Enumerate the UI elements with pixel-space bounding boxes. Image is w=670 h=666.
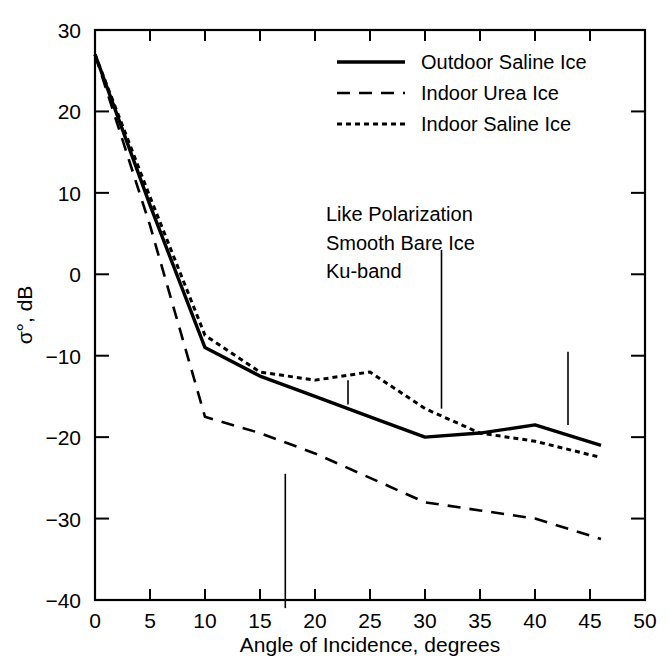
chart-background xyxy=(0,0,670,666)
y-axis-title: σ°, dB xyxy=(13,286,36,345)
x-tick-label: 40 xyxy=(523,609,546,632)
y-tick-label: −30 xyxy=(45,508,81,531)
x-axis-title: Angle of Incidence, degrees xyxy=(240,633,500,656)
sigma0-vs-incidence-angle-chart: 05101520253035404550 −40−30−20−100102030… xyxy=(0,0,670,666)
x-tick-label: 25 xyxy=(358,609,381,632)
legend-label-2: Indoor Saline Ice xyxy=(421,113,571,135)
x-tick-label: 15 xyxy=(248,609,271,632)
y-tick-label: 0 xyxy=(69,263,81,286)
x-tick-label: 5 xyxy=(144,609,156,632)
y-tick-label: −10 xyxy=(45,345,81,368)
x-tick-label: 30 xyxy=(413,609,436,632)
y-tick-label: 10 xyxy=(58,182,81,205)
annotation-line-0: Like Polarization xyxy=(326,203,473,225)
legend-label-0: Outdoor Saline Ice xyxy=(421,51,587,73)
x-tick-label: 45 xyxy=(578,609,601,632)
y-tick-label: −40 xyxy=(45,589,81,612)
x-tick-label: 10 xyxy=(193,609,216,632)
annotation-line-1: Smooth Bare Ice xyxy=(326,232,475,254)
annotation-line-2: Ku-band xyxy=(326,260,402,282)
x-tick-label: 20 xyxy=(303,609,326,632)
y-tick-label: −20 xyxy=(45,426,81,449)
y-tick-label: 30 xyxy=(58,19,81,42)
y-tick-label: 20 xyxy=(58,100,81,123)
x-tick-label: 35 xyxy=(468,609,491,632)
x-tick-label: 50 xyxy=(633,609,656,632)
legend-label-1: Indoor Urea Ice xyxy=(421,82,559,104)
x-tick-label: 0 xyxy=(89,609,101,632)
chart-figure: 05101520253035404550 −40−30−20−100102030… xyxy=(0,0,670,666)
